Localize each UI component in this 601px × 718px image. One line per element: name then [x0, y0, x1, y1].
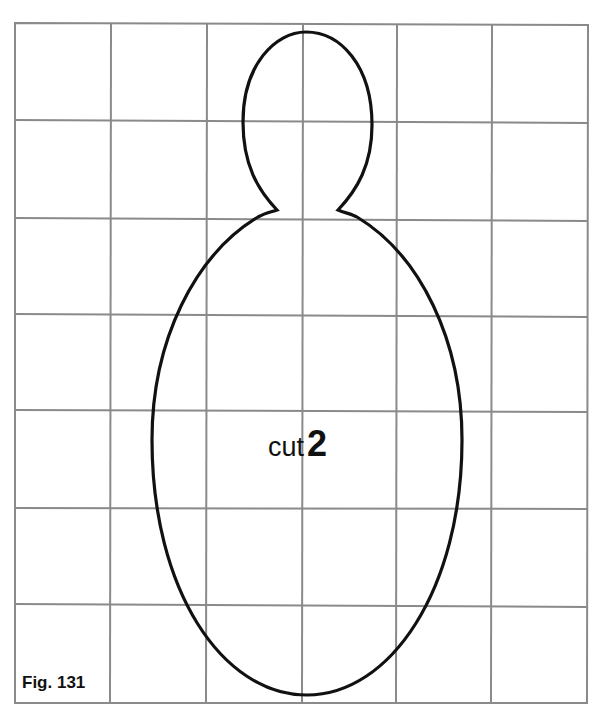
- cut-count: 2: [307, 423, 327, 464]
- grid-row-line: [15, 508, 588, 509]
- grid: [15, 23, 588, 704]
- doll-pattern-outline: [152, 32, 462, 695]
- cut-word: cut: [268, 432, 304, 462]
- grid-column-line: [110, 24, 111, 703]
- grid-column-line: [206, 24, 207, 703]
- grid-row-line: [15, 218, 588, 221]
- cut-instruction-label: cut2: [268, 426, 327, 462]
- figure-caption: Fig. 131: [22, 673, 85, 693]
- grid-row-line: [15, 314, 588, 317]
- grid-column-line: [396, 25, 397, 704]
- grid-column-line: [491, 25, 492, 704]
- grid-row-line: [15, 410, 588, 412]
- grid-column-line: [302, 24, 303, 703]
- pattern-diagram: cut2 Fig. 131: [0, 0, 601, 718]
- pattern-grid-svg: [0, 0, 601, 718]
- grid-row-line: [15, 120, 588, 123]
